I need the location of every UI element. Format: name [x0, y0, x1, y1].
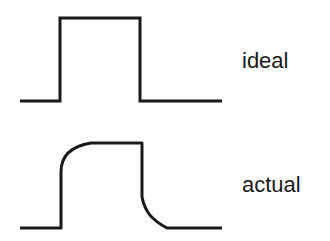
actual-waveform — [20, 143, 222, 228]
ideal-waveform — [20, 18, 222, 101]
ideal-label: ideal — [242, 50, 288, 72]
actual-label: actual — [242, 174, 301, 196]
pulse-diagram: ideal actual — [0, 0, 330, 241]
waveform-canvas — [0, 0, 330, 241]
